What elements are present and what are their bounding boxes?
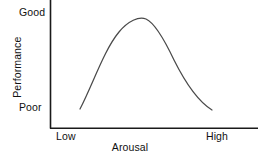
performance-curve bbox=[80, 18, 212, 110]
data-curve-group bbox=[80, 18, 212, 110]
arousal-performance-chart: Good Poor Low High Arousal Performance bbox=[0, 0, 260, 158]
y-axis-title: Performance bbox=[12, 17, 23, 117]
y-axis-tick-label-good: Good bbox=[19, 7, 45, 18]
x-axis-tick-label-high: High bbox=[206, 131, 228, 142]
x-axis-tick-label-low: Low bbox=[56, 131, 76, 142]
x-axis-title: Arousal bbox=[0, 142, 260, 153]
axes-group bbox=[50, 0, 258, 129]
y-axis-tick-label-poor: Poor bbox=[19, 102, 42, 113]
